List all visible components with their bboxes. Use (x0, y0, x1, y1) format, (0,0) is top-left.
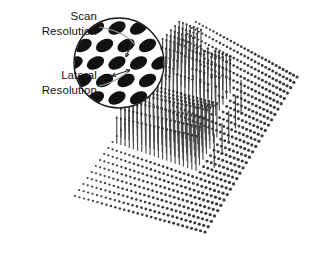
grid-dot (178, 26, 180, 28)
grid-dot (186, 123, 189, 126)
grid-dot (225, 60, 228, 63)
grid-dot (162, 165, 165, 168)
grid-dot (96, 194, 98, 196)
grid-dot (124, 160, 126, 162)
grid-dot (229, 114, 232, 117)
grid-dot (276, 100, 279, 103)
grid-dot (251, 110, 254, 113)
grid-dot (168, 89, 170, 91)
grid-dot (217, 150, 220, 153)
grid-dot (210, 63, 213, 66)
grid-dot (261, 79, 264, 82)
grid-dot (142, 173, 145, 176)
grid-dot (222, 166, 225, 169)
grid-dot (194, 196, 197, 199)
grid-dot (282, 68, 285, 71)
grid-dot (251, 150, 254, 153)
grid-dot (246, 142, 249, 145)
grid-dot (157, 204, 160, 207)
grid-dot (130, 190, 133, 193)
grid-dot (231, 142, 234, 145)
grid-dot (145, 208, 148, 211)
grid-dot (83, 197, 85, 199)
grid-dot (225, 153, 228, 156)
grid-dot (174, 169, 177, 172)
grid-dot (285, 70, 288, 73)
grid-dot (228, 148, 231, 151)
grid-dot (227, 174, 230, 177)
grid-dot (204, 212, 207, 215)
grid-dot (195, 69, 198, 72)
grid-dot (271, 77, 274, 80)
grid-dot (229, 188, 232, 191)
grid-dot (241, 126, 244, 129)
grid-dot (183, 212, 186, 215)
grid-dot (158, 164, 161, 167)
grid-dot (105, 204, 107, 206)
grid-dot (214, 70, 217, 73)
grid-dot (215, 202, 218, 205)
grid-dot (128, 119, 130, 121)
grid-dot (198, 223, 201, 226)
grid-dot (188, 98, 191, 101)
grid-dot (173, 120, 176, 123)
grid-dot (176, 183, 179, 186)
grid-dot (250, 136, 253, 139)
grid-dot (95, 187, 97, 189)
grid-dot (156, 94, 158, 96)
grid-dot (183, 172, 186, 175)
grid-dot (184, 219, 187, 222)
grid-dot (112, 163, 114, 165)
grid-dot (100, 181, 102, 183)
grid-dot (158, 211, 161, 214)
grid-dot (237, 43, 240, 46)
grid-dot (282, 90, 285, 93)
grid-dot (205, 218, 208, 221)
grid-dot (289, 86, 292, 89)
grid-dot (255, 104, 258, 107)
grid-dot (180, 96, 183, 99)
grid-dot (250, 66, 253, 69)
grid-dot (205, 108, 208, 111)
grid-dot (188, 213, 191, 216)
grid-dot (206, 89, 209, 92)
grid-dot (283, 97, 286, 100)
grid-dot (83, 190, 85, 192)
grid-dot (162, 38, 164, 40)
grid-dot (240, 53, 243, 56)
grid-dot (133, 170, 135, 172)
grid-dot (108, 183, 110, 185)
grid-dot (193, 221, 196, 224)
grid-dot (264, 129, 267, 132)
grid-dot (272, 84, 275, 87)
grid-dot (172, 189, 175, 192)
grid-dot (203, 82, 206, 85)
grid-dot (203, 61, 206, 64)
grid-dot (227, 134, 230, 137)
grid-dot (199, 70, 202, 73)
grid-dot (150, 216, 153, 219)
grid-dot (169, 100, 172, 103)
grid-dot (194, 228, 197, 231)
grid-dot (219, 138, 222, 141)
grid-dot (218, 116, 221, 119)
grid-dot (250, 81, 253, 84)
grid-dot (237, 165, 240, 168)
grid-dot (145, 160, 147, 162)
grid-dot (153, 125, 156, 128)
grid-dot (239, 75, 242, 78)
grid-dot (161, 199, 164, 202)
grid-dot (172, 104, 174, 106)
grid-dot (218, 94, 221, 97)
grid-dot (261, 71, 264, 74)
grid-dot (262, 108, 265, 111)
grid-dot (222, 118, 225, 121)
grid-dot (258, 99, 261, 102)
grid-dot (160, 98, 162, 100)
grid-dot (136, 121, 138, 123)
grid-dot (220, 145, 223, 148)
grid-dot (113, 192, 115, 194)
grid-dot (215, 170, 218, 173)
grid-dot (173, 196, 176, 199)
grid-dot (254, 82, 257, 85)
